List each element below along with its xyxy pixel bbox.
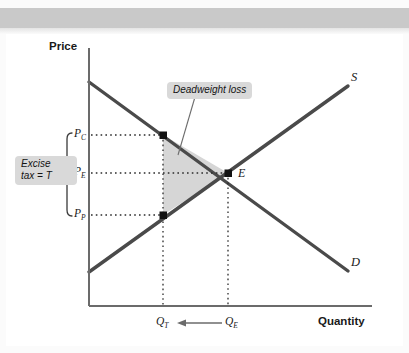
price-tick-pe-sub: E: [81, 171, 86, 180]
quantity-tick-qt: QT: [156, 315, 168, 330]
point-marker-consumer-price: [160, 132, 168, 140]
deadweight-loss-leader-line: [178, 97, 195, 155]
deadweight-loss-callout: Deadweight loss: [167, 82, 252, 99]
price-tick-pp-sub: P: [81, 213, 86, 222]
point-marker-equilibrium: [225, 170, 233, 178]
quantity-tick-qt-sub: T: [164, 321, 168, 330]
price-tick-pp-base: P: [74, 207, 81, 219]
excise-tax-callout-line2: tax = T: [21, 170, 52, 181]
demand-curve-label: D: [351, 255, 360, 270]
figure-root: Price Quantity S D E PC PE PP QT QE Dead…: [0, 0, 409, 353]
price-tick-pp: PP: [74, 207, 86, 222]
quantity-tick-qe-sub: E: [233, 321, 238, 330]
scan-header-text: [12, 11, 397, 25]
x-axis-title: Quantity: [318, 315, 365, 327]
chart-canvas: Price Quantity S D E PC PE PP QT QE Dead…: [6, 34, 403, 346]
quantity-tick-qe: QE: [225, 315, 238, 330]
quantity-shift-arrow-head: [177, 319, 186, 326]
scan-header-band: [0, 8, 409, 28]
equilibrium-point-label: E: [238, 166, 245, 181]
supply-demand-chart: [6, 34, 403, 346]
supply-curve-label: S: [351, 70, 357, 85]
excise-tax-callout-line1: Excise: [21, 158, 50, 169]
price-tick-pc-base: P: [74, 127, 81, 139]
y-axis-title: Price: [49, 40, 77, 52]
excise-tax-callout: Excise tax = T: [15, 156, 77, 185]
point-marker-producer-price: [160, 212, 168, 220]
price-tick-pc: PC: [74, 127, 86, 142]
price-tick-pc-sub: C: [81, 133, 86, 142]
